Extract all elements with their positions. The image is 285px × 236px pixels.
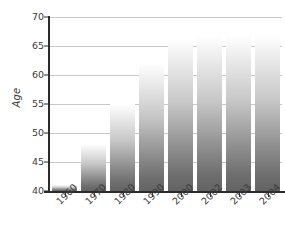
bar <box>197 36 222 191</box>
bar <box>168 39 193 191</box>
y-tick-label: 50 <box>22 128 44 138</box>
y-tick-label: 60 <box>22 70 44 80</box>
y-tick-label: 55 <box>22 99 44 109</box>
y-tick-label: 70 <box>22 12 44 22</box>
bar <box>139 63 164 191</box>
bar <box>255 34 280 192</box>
bar-chart: Age 40 45 50 55 60 65 70 196019701980199… <box>0 0 285 236</box>
y-axis-ticks: 40 45 50 55 60 65 70 <box>20 0 44 236</box>
y-tick-label: 65 <box>22 41 44 51</box>
bar <box>226 35 251 191</box>
bar <box>110 104 135 192</box>
y-tick-label: 40 <box>22 186 44 196</box>
y-tick-label: 45 <box>22 157 44 167</box>
bars-layer <box>50 16 282 191</box>
plot-area <box>50 16 282 191</box>
